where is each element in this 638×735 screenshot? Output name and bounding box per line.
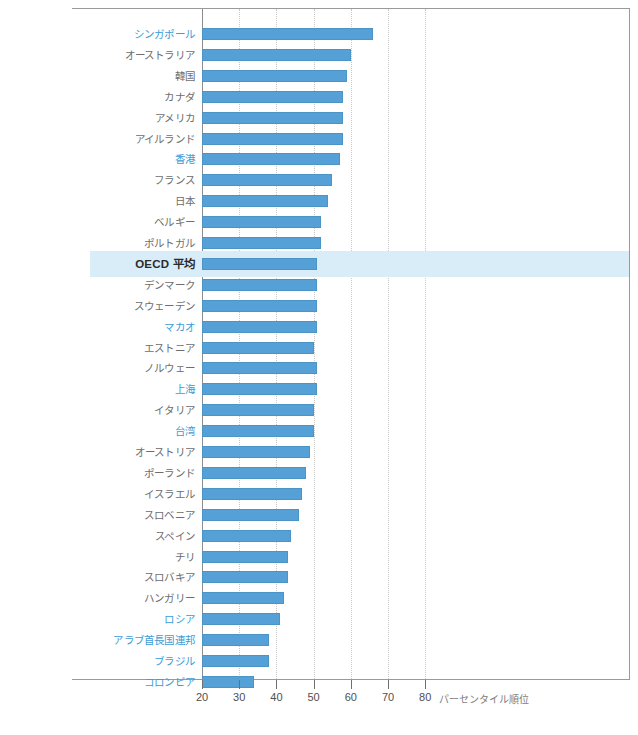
bar-label-4: アメリカ — [71, 107, 199, 129]
bar-10 — [202, 237, 321, 249]
bar-row: シンガポール — [72, 23, 629, 45]
bar-25 — [202, 551, 288, 563]
bar-row: ノルウェー — [72, 357, 629, 379]
bar-label-9: ベルギー — [71, 211, 199, 233]
bar-3 — [202, 91, 343, 103]
bar-row: スペイン — [72, 525, 629, 547]
bar-6 — [202, 153, 340, 165]
bar-row: ブラジル — [72, 650, 629, 672]
bar-27 — [202, 592, 284, 604]
bar-17 — [202, 383, 317, 395]
bar-row: フランス — [72, 169, 629, 191]
bar-1 — [202, 49, 351, 61]
bar-row: ベルギー — [72, 211, 629, 233]
bar-label-20: オーストリア — [71, 441, 199, 463]
bar-8 — [202, 195, 328, 207]
bar-label-17: 上海 — [71, 378, 199, 400]
bar-row: イタリア — [72, 399, 629, 421]
bar-label-7: フランス — [71, 169, 199, 191]
bar-7 — [202, 174, 332, 186]
x-axis: 20304050607080パーセンタイル順位 — [72, 680, 630, 720]
bar-12 — [202, 279, 317, 291]
bar-4 — [202, 112, 343, 124]
bar-label-10: ポルトガル — [71, 232, 199, 254]
bar-row: スウェーデン — [72, 295, 629, 317]
bar-label-16: ノルウェー — [71, 357, 199, 379]
bar-label-15: エストニア — [71, 337, 199, 359]
bar-row: アメリカ — [72, 107, 629, 129]
x-tick-30 — [239, 680, 240, 689]
bar-14 — [202, 321, 317, 333]
bar-29 — [202, 634, 269, 646]
bar-label-29: アラブ首長国連邦 — [71, 629, 199, 651]
x-tick-40 — [276, 680, 277, 689]
x-tick-label-30: 30 — [233, 691, 245, 703]
bar-24 — [202, 530, 291, 542]
bar-label-23: スロベニア — [71, 504, 199, 526]
bar-row: ポルトガル — [72, 232, 629, 254]
bar-label-24: スペイン — [71, 525, 199, 547]
bar-15 — [202, 342, 314, 354]
plot-area: シンガポールオーストラリア韓国カナダアメリカアイルランド香港フランス日本ベルギー… — [72, 8, 630, 680]
x-tick-label-20: 20 — [196, 691, 208, 703]
bar-11 — [202, 258, 317, 270]
bar-label-26: スロバキア — [71, 566, 199, 588]
bar-label-2: 韓国 — [71, 65, 199, 87]
bar-row: デンマーク — [72, 274, 629, 296]
bar-19 — [202, 425, 314, 437]
bar-row: 上海 — [72, 378, 629, 400]
x-tick-80 — [425, 680, 426, 689]
x-tick-label-40: 40 — [270, 691, 282, 703]
bar-label-3: カナダ — [71, 86, 199, 108]
bar-label-5: アイルランド — [71, 128, 199, 150]
bar-row: マカオ — [72, 316, 629, 338]
bar-row: 韓国 — [72, 65, 629, 87]
bar-row: カナダ — [72, 86, 629, 108]
x-tick-label-70: 70 — [382, 691, 394, 703]
bar-row: スロベニア — [72, 504, 629, 526]
bar-label-28: ロシア — [71, 608, 199, 630]
x-tick-label-80: 80 — [419, 691, 431, 703]
bar-row: イスラエル — [72, 483, 629, 505]
bar-0 — [202, 28, 373, 40]
bar-label-1: オーストラリア — [71, 44, 199, 66]
bar-label-6: 香港 — [71, 148, 199, 170]
bar-label-0: シンガポール — [71, 23, 199, 45]
bar-chart: シンガポールオーストラリア韓国カナダアメリカアイルランド香港フランス日本ベルギー… — [0, 0, 638, 735]
bar-23 — [202, 509, 299, 521]
bar-row: オーストラリア — [72, 44, 629, 66]
bar-18 — [202, 404, 314, 416]
x-tick-60 — [351, 680, 352, 689]
x-tick-label-60: 60 — [345, 691, 357, 703]
bar-20 — [202, 446, 310, 458]
bar-13 — [202, 300, 317, 312]
bar-label-25: チリ — [71, 546, 199, 568]
bar-5 — [202, 133, 343, 145]
x-tick-50 — [314, 680, 315, 689]
bar-label-19: 台湾 — [71, 420, 199, 442]
bar-row: エストニア — [72, 337, 629, 359]
bar-row: ポーランド — [72, 462, 629, 484]
bar-label-14: マカオ — [71, 316, 199, 338]
bar-label-8: 日本 — [71, 190, 199, 212]
bar-row: 台湾 — [72, 420, 629, 442]
bar-row: スロバキア — [72, 566, 629, 588]
x-tick-20 — [202, 680, 203, 689]
bar-row: 香港 — [72, 148, 629, 170]
bar-label-13: スウェーデン — [71, 295, 199, 317]
x-axis-title: パーセンタイル順位 — [439, 691, 529, 706]
bar-16 — [202, 362, 317, 374]
bar-22 — [202, 488, 302, 500]
bar-label-11: OECD 平均 — [71, 253, 199, 275]
bar-row: ロシア — [72, 608, 629, 630]
bar-label-21: ポーランド — [71, 462, 199, 484]
bar-21 — [202, 467, 306, 479]
bar-row: アラブ首長国連邦 — [72, 629, 629, 651]
bar-label-18: イタリア — [71, 399, 199, 421]
bar-row: アイルランド — [72, 128, 629, 150]
x-tick-70 — [388, 680, 389, 689]
x-tick-label-50: 50 — [307, 691, 319, 703]
bar-30 — [202, 655, 269, 667]
bar-row: オーストリア — [72, 441, 629, 463]
bar-2 — [202, 70, 347, 82]
